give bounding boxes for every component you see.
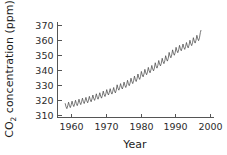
x-tick-label: 1960 (59, 121, 83, 132)
co2-keeling-curve (65, 30, 201, 109)
y-tick-label: 320 (35, 95, 53, 106)
y-tick-label: 330 (35, 80, 53, 91)
y-axis-title-main: CO (3, 121, 16, 138)
chart-canvas: 310320330340350360370 196019701980199020… (0, 0, 227, 155)
y-axis-title-group: CO2 concentration (ppm) (3, 0, 18, 138)
data-series-group (65, 30, 201, 109)
y-tick-label: 310 (35, 110, 53, 121)
y-tick-label: 340 (35, 65, 53, 76)
y-axis-title-rest: concentration (ppm) (3, 0, 16, 116)
y-tick-label: 350 (35, 50, 53, 61)
x-tick-label: 1970 (94, 121, 118, 132)
y-tick-label: 370 (35, 20, 53, 31)
co2-concentration-chart: 310320330340350360370 196019701980199020… (0, 0, 227, 155)
x-tick-label: 1980 (129, 121, 153, 132)
y-axis-title: CO2 concentration (ppm) (3, 0, 18, 138)
x-tick-label: 1990 (163, 121, 187, 132)
x-tick-label: 2000 (198, 121, 222, 132)
x-axis-title: Year (122, 138, 147, 151)
x-axis-ticks: 19601970198019902000 (59, 114, 222, 132)
y-tick-label: 360 (35, 35, 53, 46)
